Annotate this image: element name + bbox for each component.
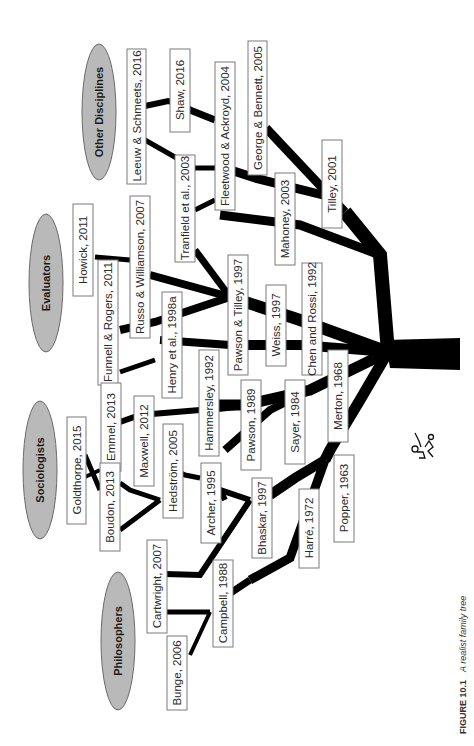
svg-text:Goldthorpe, 2015: Goldthorpe, 2015 <box>71 426 83 515</box>
node-pawson: Pawson, 1989 <box>241 380 261 470</box>
node-tranfield: Tranfield et al., 2003 <box>175 155 195 262</box>
node-maxwell: Maxwell, 2012 <box>134 396 154 486</box>
node-fleetwood: Fleetwood & Ackroyd, 2004 <box>215 62 235 210</box>
svg-text:Hedström, 2005: Hedström, 2005 <box>167 430 179 512</box>
svg-text:Pawson & Tilley, 1997: Pawson & Tilley, 1997 <box>232 259 244 371</box>
node-mahoney: Mahoney, 2003 <box>275 173 295 265</box>
branch-campbell-bunge <box>190 612 210 655</box>
svg-text:Harré, 1972: Harré, 1972 <box>303 498 315 559</box>
svg-text:Hammersley, 1992: Hammersley, 1992 <box>203 355 215 451</box>
node-popper: Popper, 1963 <box>334 455 354 542</box>
node-archer: Archer, 1995 <box>201 463 221 543</box>
node-goldthorpe: Goldthorpe, 2015 <box>67 417 86 524</box>
node-campbell: Campbell, 1988 <box>213 560 233 647</box>
svg-text:Campbell, 1988: Campbell, 1988 <box>217 563 229 644</box>
group-other-disciplines: Other Disciplines <box>82 44 116 180</box>
branch-hedstrom-boudon2 <box>120 500 160 530</box>
branch-tranfield-fleetwood2 <box>195 200 215 210</box>
group-sociologists: Sociologists <box>23 401 57 539</box>
svg-text:Russo & Williamson, 2007: Russo & Williamson, 2007 <box>134 200 146 334</box>
node-leeuw: Leeuw & Schmeets, 2016 <box>127 49 146 184</box>
svg-text:George & Bennett, 2005: George & Bennett, 2005 <box>252 46 264 170</box>
node-merton: Merton, 1968 <box>328 350 348 442</box>
svg-text:Maxwell, 2012: Maxwell, 2012 <box>138 404 150 478</box>
node-weiss: Weiss, 1997 <box>266 285 286 366</box>
svg-text:Weiss, 1997: Weiss, 1997 <box>270 293 282 356</box>
branch-bhaskar-archer <box>220 490 250 500</box>
signature-doodle-icon <box>412 433 434 458</box>
svg-text:Shaw, 2016: Shaw, 2016 <box>174 60 186 120</box>
svg-text:Bunge, 2006: Bunge, 2006 <box>171 640 183 705</box>
node-tilley: Tilley, 2001 <box>322 140 342 228</box>
svg-text:Howick, 2011: Howick, 2011 <box>77 216 89 284</box>
svg-text:Leeuw & Schmeets, 2016: Leeuw & Schmeets, 2016 <box>131 50 143 181</box>
svg-text:Bhaskar, 1997: Bhaskar, 1997 <box>256 481 268 555</box>
branch-trunk-tilley <box>345 212 388 352</box>
svg-text:Fleetwood & Ackroyd, 2004: Fleetwood & Ackroyd, 2004 <box>219 65 231 206</box>
figure-caption: FIGURE 10.1 A realist family tree <box>458 596 468 734</box>
node-funnell: Funnell & Rogers, 2011 <box>98 260 118 385</box>
svg-text:Emmel, 2013: Emmel, 2013 <box>105 393 117 461</box>
node-boudon: Boudon, 2013 <box>100 463 120 551</box>
realist-family-tree-diagram: Other Disciplines Evaluators Sociologist… <box>0 0 474 746</box>
node-shaw: Shaw, 2016 <box>170 49 190 132</box>
group-philosophers: Philosophers <box>101 572 135 710</box>
node-pawson-tilley: Pawson & Tilley, 1997 <box>228 255 248 375</box>
node-george: George & Bennett, 2005 <box>248 41 267 175</box>
node-howick: Howick, 2011 <box>73 204 93 296</box>
trunk <box>385 338 460 370</box>
node-henry: Henry et al., 1998a <box>162 292 182 398</box>
group-label: Sociologists <box>34 437 46 502</box>
svg-text:Merton, 1968: Merton, 1968 <box>332 362 344 430</box>
svg-text:Archer, 1995: Archer, 1995 <box>205 470 217 535</box>
node-bhaskar: Bhaskar, 1997 <box>252 478 272 558</box>
branch-hammersley-emmel <box>120 410 200 422</box>
svg-text:Sayer, 1984: Sayer, 1984 <box>289 391 301 453</box>
node-sayer: Sayer, 1984 <box>285 380 305 464</box>
node-hammersley: Hammersley, 1992 <box>199 350 219 456</box>
branch-funnell-henry <box>120 360 155 372</box>
svg-text:Tranfield et al., 2003: Tranfield et al., 2003 <box>179 156 191 260</box>
node-russo: Russo & Williamson, 2007 <box>130 196 150 338</box>
node-hedstrom: Hedström, 2005 <box>163 424 183 518</box>
svg-text:Mahoney, 2003: Mahoney, 2003 <box>279 180 291 258</box>
svg-text:Funnell & Rogers, 2011: Funnell & Rogers, 2011 <box>102 262 114 382</box>
svg-text:Popper, 1963: Popper, 1963 <box>338 464 350 532</box>
caption-label: FIGURE 10.1 <box>458 680 468 734</box>
node-harre: Harré, 1972 <box>299 489 319 568</box>
caption-text: A realist family tree <box>458 596 468 673</box>
svg-text:Pawson, 1989: Pawson, 1989 <box>245 389 257 462</box>
svg-text:Tilley, 2001: Tilley, 2001 <box>326 155 338 213</box>
svg-text:Boudon, 2013: Boudon, 2013 <box>104 471 116 543</box>
node-emmel: Emmel, 2013 <box>101 383 121 471</box>
svg-text:Chen and Rossi, 1992: Chen and Rossi, 1992 <box>306 262 318 376</box>
group-evaluators: Evaluators <box>29 214 63 352</box>
group-label: Other Disciplines <box>93 67 105 157</box>
group-label: Evaluators <box>40 255 52 311</box>
node-chen: Chen and Rossi, 1992 <box>302 262 322 376</box>
group-label: Philosophers <box>112 606 124 676</box>
node-bunge: Bunge, 2006 <box>167 636 187 710</box>
node-cartwright: Cartwright, 2007 <box>147 540 167 633</box>
svg-text:Henry et al., 1998a: Henry et al., 1998a <box>166 296 178 394</box>
svg-text:Cartwright, 2007: Cartwright, 2007 <box>151 544 163 628</box>
